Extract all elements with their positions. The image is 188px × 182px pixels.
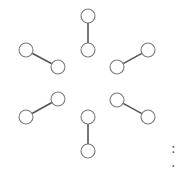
node-pair-upper-right — [110, 43, 155, 74]
node-a — [19, 110, 33, 124]
edge — [32, 53, 52, 63]
node-b — [51, 92, 65, 106]
node-a — [110, 93, 124, 107]
node-pair-lower-left — [19, 92, 65, 124]
node-pair-lower-right — [110, 93, 155, 124]
node-b — [51, 60, 65, 74]
node-a — [81, 110, 95, 124]
node-pair-top — [81, 9, 95, 57]
edge — [123, 103, 142, 113]
node-a — [81, 9, 95, 23]
edge — [123, 53, 142, 63]
radial-pairs-diagram — [0, 0, 188, 182]
node-b — [141, 110, 155, 124]
node-b — [141, 43, 155, 57]
edge — [32, 102, 52, 113]
node-b — [81, 144, 95, 158]
node-a — [19, 43, 33, 57]
caption-fragment: : . — [171, 141, 188, 169]
node-pair-upper-left — [19, 43, 65, 74]
node-b — [81, 43, 95, 57]
node-pair-bottom — [81, 110, 95, 158]
node-a — [110, 60, 124, 74]
